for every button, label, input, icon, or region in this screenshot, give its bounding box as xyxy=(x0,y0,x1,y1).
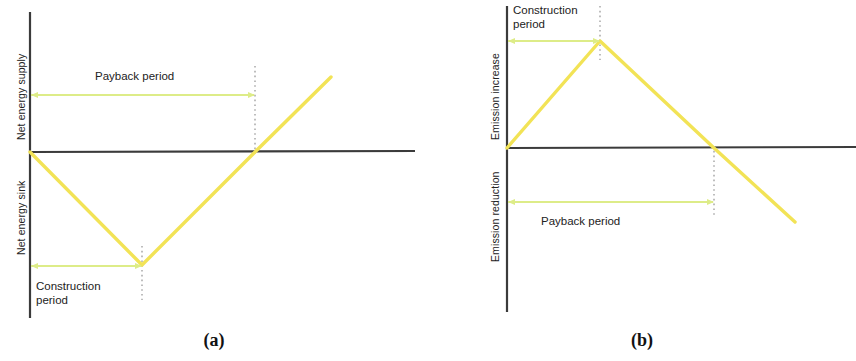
net-energy-curve xyxy=(30,77,331,265)
payback-period-arrow xyxy=(31,92,255,98)
x-axis-zero-line xyxy=(30,151,415,152)
y-axis-label-lower-a: Net energy sink xyxy=(16,181,27,255)
construction-period-label-b-line1: Construction xyxy=(513,4,578,16)
y-axis-label-upper-b: Emission increase xyxy=(490,53,501,140)
x-axis-zero-line xyxy=(507,147,856,148)
panel-a-caption: (a) xyxy=(0,330,428,351)
payback-period-label-a: Payback period xyxy=(95,70,174,84)
construction-period-arrow xyxy=(508,38,600,44)
construction-period-label-b: Construction period xyxy=(513,4,578,31)
construction-period-label-b-line2: period xyxy=(513,18,545,30)
panel-b: Emission increase Emission reduction Con… xyxy=(428,0,856,361)
y-axis-label-lower-b: Emission reduction xyxy=(490,171,501,262)
y-axis-label-upper-a: Net energy supply xyxy=(16,54,27,140)
panel-b-caption: (b) xyxy=(428,330,856,351)
construction-period-label-a-line1: Construction xyxy=(36,280,101,292)
panel-b-plot xyxy=(428,0,856,330)
payback-period-label-b: Payback period xyxy=(541,215,620,229)
construction-period-arrow xyxy=(31,263,142,269)
panel-a: Net energy supply Net energy sink Paybac… xyxy=(0,0,428,361)
emission-curve xyxy=(507,41,795,222)
construction-period-label-a: Construction period xyxy=(36,280,101,307)
figure-root: Net energy supply Net energy sink Paybac… xyxy=(0,0,856,361)
construction-period-label-a-line2: period xyxy=(36,294,68,306)
payback-period-arrow xyxy=(508,199,714,205)
